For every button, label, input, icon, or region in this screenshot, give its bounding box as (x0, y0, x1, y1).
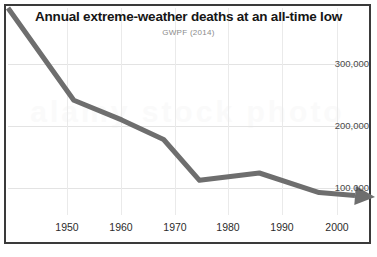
series-extreme-weather-deaths (8, 8, 375, 205)
ytick-label-200000: 200,000 (335, 120, 369, 131)
ytick-label-100000: 100,000 (335, 182, 369, 193)
xtick-label-1990: 1990 (270, 221, 293, 233)
xtick-label-1950: 1950 (55, 221, 78, 233)
x-axis: 1950 1960 1970 1980 1990 2000 (6, 216, 369, 242)
xtick-label-1980: 1980 (216, 221, 239, 233)
ytick-label-300000: 300,000 (335, 58, 369, 69)
xtick-label-2000: 2000 (325, 221, 348, 233)
chart-figure: alamy stock photo Annual extreme-weather… (0, 0, 377, 257)
series-line (8, 8, 355, 195)
xtick-label-1960: 1960 (109, 221, 132, 233)
xtick-label-1970: 1970 (163, 221, 186, 233)
